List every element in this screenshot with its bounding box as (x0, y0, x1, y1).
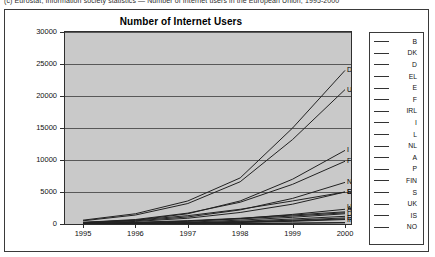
legend-line-icon (374, 111, 389, 112)
legend-item[interactable]: UK (370, 198, 423, 210)
legend-item[interactable]: E (370, 82, 423, 94)
legend-line-icon (374, 76, 389, 77)
legend-item[interactable]: S (370, 187, 423, 199)
series-line (83, 150, 345, 222)
legend-item[interactable]: NL (370, 140, 423, 152)
x-tick-mark (345, 224, 346, 228)
legend-item[interactable]: FIN (370, 175, 423, 187)
series-end-label: UK (347, 86, 352, 93)
legend-item[interactable]: P (370, 164, 423, 176)
legend-line-icon (374, 192, 389, 193)
x-tick-mark (135, 224, 136, 228)
legend-item-label: P (389, 165, 420, 173)
legend-item[interactable]: L (370, 129, 423, 141)
legend-item[interactable]: D (370, 59, 423, 71)
legend-line-icon (374, 204, 389, 205)
legend-item-label: D (389, 61, 420, 69)
x-tick-label: 1999 (273, 229, 313, 238)
legend-item-label: I (389, 119, 420, 127)
legend-line-icon (374, 146, 389, 147)
legend-item-label: IS (389, 212, 420, 220)
legend-line-icon (374, 99, 389, 100)
legend-item[interactable]: F (370, 94, 423, 106)
legend-item-label: DK (389, 49, 420, 57)
legend-item-label: IRL (389, 107, 420, 115)
x-tick-mark (188, 224, 189, 228)
y-tick-label: 0 (9, 220, 57, 228)
legend-item[interactable]: B (370, 36, 423, 48)
legend-item-label: NO (389, 223, 420, 231)
legend-line-icon (374, 180, 389, 181)
legend-item-label: NL (389, 142, 420, 150)
legend-line-icon (374, 122, 389, 123)
top-caption-text: (c) Eurostat, Information society statis… (4, 0, 339, 4)
x-tick-mark (240, 224, 241, 228)
legend-line-icon (374, 134, 389, 135)
legend-line-icon (374, 215, 389, 216)
legend-item[interactable]: IRL (370, 106, 423, 118)
y-tick-label: 25000 (9, 60, 57, 68)
legend-item-label: L (389, 131, 420, 139)
series-end-label: NL (347, 178, 352, 185)
legend-item-label: EL (389, 73, 420, 81)
y-tick-label: 30000 (9, 28, 57, 36)
y-tick-label: 20000 (9, 92, 57, 100)
y-tick-label: 10000 (9, 156, 57, 164)
legend-item[interactable]: EL (370, 71, 423, 83)
x-tick-mark (83, 224, 84, 228)
legend-line-icon (374, 169, 389, 170)
legend-item-label: FIN (389, 177, 420, 185)
legend: BDKDELEFIRLILNLAPFINSUKISNO (369, 32, 424, 245)
legend-item-label: A (389, 154, 420, 162)
x-tick-label: 1995 (63, 229, 103, 238)
legend-line-icon (374, 88, 389, 89)
legend-item-label: E (389, 84, 420, 92)
legend-item-label: F (389, 96, 420, 104)
y-tick-label: 5000 (9, 188, 57, 196)
legend-item-label: UK (389, 200, 420, 208)
y-tick-label: 15000 (9, 124, 57, 132)
series-end-label: F (347, 157, 351, 164)
plot-area: DUKIFNLESUKADKELIRL (64, 31, 352, 225)
legend-line-icon (374, 53, 389, 54)
legend-item[interactable]: IS (370, 210, 423, 222)
series-line (83, 70, 345, 220)
series-end-label: IRL (347, 216, 352, 223)
series-end-label: S (347, 188, 352, 195)
series-end-label: I (347, 146, 349, 153)
legend-line-icon (374, 41, 389, 42)
legend-item[interactable]: A (370, 152, 423, 164)
plot-lines (65, 32, 351, 224)
x-tick-label: 2000 (325, 229, 365, 238)
series-end-label: D (347, 66, 352, 73)
figure-frame: Number of Internet Users 050001000015000… (4, 9, 429, 252)
x-tick-label: 1998 (220, 229, 260, 238)
legend-item[interactable]: DK (370, 48, 423, 60)
x-tick-label: 1996 (115, 229, 155, 238)
legend-line-icon (374, 227, 389, 228)
legend-line-icon (374, 157, 389, 158)
chart-title: Number of Internet Users (5, 16, 357, 27)
legend-item[interactable]: I (370, 117, 423, 129)
x-tick-label: 1997 (168, 229, 208, 238)
top-caption: (c) Eurostat, Information society statis… (0, 0, 435, 7)
legend-item-label: S (389, 189, 420, 197)
x-tick-mark (293, 224, 294, 228)
legend-line-icon (374, 64, 389, 65)
legend-item-label: B (389, 38, 420, 46)
legend-item[interactable]: NO (370, 222, 423, 234)
